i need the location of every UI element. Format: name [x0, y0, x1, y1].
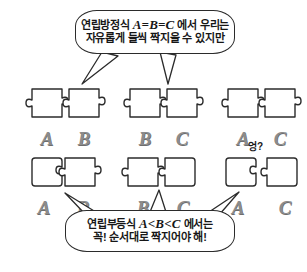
top-bubble-line1-prefix: 연립방정식 [81, 19, 130, 31]
puzzle-piece-c[interactable]: C [261, 86, 299, 120]
top-bubble-line-1: 연립방정식 A=B=C 에서 우리는 [76, 17, 234, 32]
puzzle-piece-c[interactable]: C [163, 86, 201, 120]
piece-label: A [28, 122, 66, 156]
piece-label: C [261, 122, 299, 156]
puzzle-piece-a[interactable]: A [28, 86, 66, 120]
piece-label: B [65, 122, 103, 156]
confusion-annotation: 엉? [248, 138, 263, 153]
illustration-canvas: 연립방정식 A=B=C 에서 우리는 자유롭게 둘씩 짝지을 수 있지만 A B… [0, 0, 307, 272]
top-bubble-equation: A=B=C [133, 17, 175, 32]
puzzle-piece-b[interactable]: B [61, 155, 99, 189]
equation-speech-bubble: 연립방정식 A=B=C 에서 우리는 자유롭게 둘씩 짝지을 수 있지만 [75, 10, 235, 54]
top-bubble-line-2: 자유롭게 둘씩 짝지을 수 있지만 [76, 32, 234, 45]
piece-label: B [126, 122, 164, 156]
puzzle-piece-b[interactable]: B [124, 155, 162, 189]
bottom-bubble-line-2: 꼭! 순서대로 짝지어야 해! [66, 231, 234, 244]
puzzle-piece-c[interactable]: C [161, 155, 199, 189]
bottom-bubble-line1-suffix: 에서는 [184, 218, 213, 230]
bottom-bubble-line1-prefix: 연립부등식 [87, 218, 136, 230]
top-bubble-line1-suffix: 에서 우리는 [177, 19, 229, 31]
bottom-bubble-inequality: A<B<C [139, 216, 181, 231]
piece-label: C [163, 122, 201, 156]
bottom-bubble-line-1: 연립부등식 A<B<C 에서는 [66, 216, 234, 231]
inequality-speech-bubble: 연립부등식 A<B<C 에서는 꼭! 순서대로 짝지어야 해! [65, 210, 235, 252]
puzzle-piece-b[interactable]: B [65, 86, 103, 120]
puzzle-piece-c[interactable]: C [263, 155, 301, 189]
puzzle-piece-b[interactable]: B [126, 86, 164, 120]
piece-label: A [25, 191, 63, 225]
piece-label: C [266, 191, 304, 225]
puzzle-piece-a[interactable]: A [224, 86, 262, 120]
puzzle-piece-a[interactable]: A [222, 155, 260, 189]
